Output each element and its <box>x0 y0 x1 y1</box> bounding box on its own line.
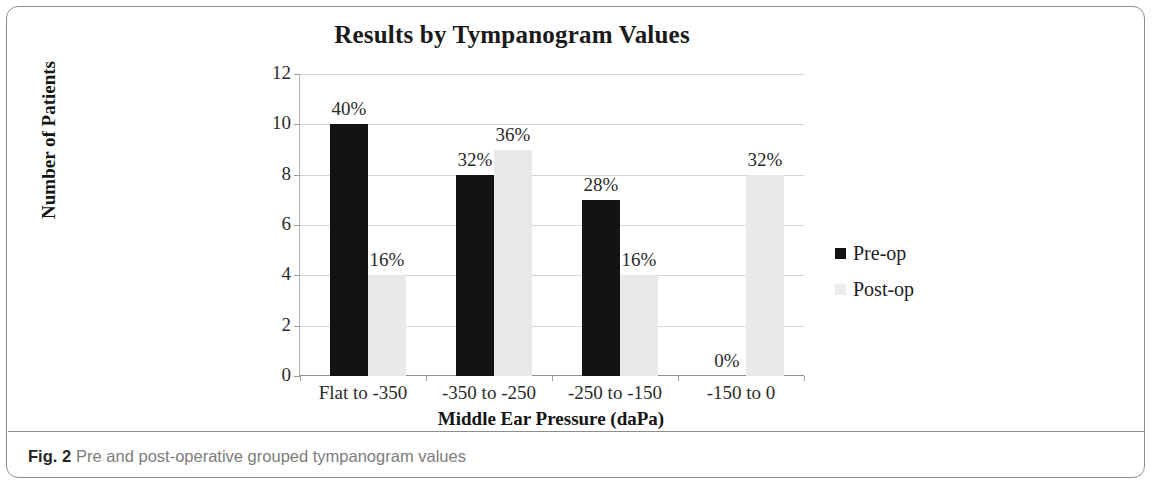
bar-postop <box>746 175 784 376</box>
legend-label-preop: Pre-op <box>853 242 906 265</box>
y-axis-tick <box>294 74 300 75</box>
y-axis-tick-label: 12 <box>251 62 291 84</box>
caption-figure-number: Fig. 2 <box>28 447 71 465</box>
y-axis-tick-label: 2 <box>251 314 291 336</box>
y-axis-tick-label: 6 <box>251 213 291 235</box>
y-axis-tick <box>294 326 300 327</box>
x-axis-category-label: -150 to 0 <box>666 382 816 404</box>
x-axis-tick <box>804 376 805 381</box>
gridline <box>300 225 804 226</box>
legend-swatch-preop-icon <box>835 248 846 259</box>
gridline <box>300 74 804 75</box>
bar-value-label: 28% <box>570 174 632 196</box>
legend-item-postop[interactable]: Post-op <box>835 271 995 307</box>
x-axis-tick <box>552 376 553 381</box>
bar-value-label: 16% <box>608 249 670 271</box>
y-axis-tick <box>294 124 300 125</box>
caption-description: Pre and post-operative grouped tympanogr… <box>76 447 466 465</box>
bar-postop <box>368 275 406 376</box>
y-axis-tick-label: 8 <box>251 163 291 185</box>
x-axis-title: Middle Ear Pressure (daPa) <box>299 408 803 430</box>
bar-postop <box>494 150 532 377</box>
bar-value-label: 32% <box>734 149 796 171</box>
y-axis-tick-labels: 024681012 <box>243 74 291 376</box>
y-axis-tick <box>294 225 300 226</box>
y-axis-title: Number of Patients <box>38 25 60 255</box>
legend-label-postop: Post-op <box>853 278 914 301</box>
legend-item-preop[interactable]: Pre-op <box>835 235 995 271</box>
chart: Results by Tympanogram Values Number of … <box>7 7 1146 431</box>
x-axis-tick <box>678 376 679 381</box>
x-axis-tick <box>426 376 427 381</box>
figure-container: Results by Tympanogram Values Number of … <box>6 6 1145 478</box>
gridline <box>300 124 804 125</box>
y-axis-tick <box>294 275 300 276</box>
gridline <box>300 175 804 176</box>
bar-value-label: 36% <box>482 124 544 146</box>
y-axis-tick <box>294 175 300 176</box>
plot-area: 40%16%Flat to -35032%36%-350 to -25028%1… <box>299 74 804 376</box>
caption-divider <box>8 431 1145 432</box>
legend-swatch-postop-icon <box>835 284 846 295</box>
y-axis-tick-label: 10 <box>251 112 291 134</box>
bar-preop <box>582 200 620 376</box>
y-axis-tick-label: 4 <box>251 263 291 285</box>
y-axis-tick-label: 0 <box>251 364 291 386</box>
bar-preop <box>456 175 494 376</box>
chart-legend: Pre-op Post-op <box>835 235 995 307</box>
bar-value-label: 40% <box>318 98 380 120</box>
figure-caption: Fig. 2Pre and post-operative grouped tym… <box>28 447 1118 466</box>
bar-value-label: 16% <box>356 249 418 271</box>
bar-postop <box>620 275 658 376</box>
x-axis-tick <box>300 376 301 381</box>
chart-title: Results by Tympanogram Values <box>7 21 1017 49</box>
